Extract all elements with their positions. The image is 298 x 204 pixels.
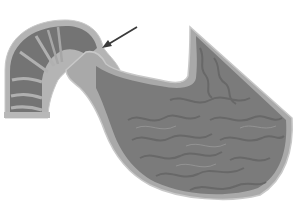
stomach-illustration [0, 0, 298, 204]
pointer-arrow-icon [102, 27, 137, 48]
anatomical-figure [0, 0, 298, 204]
